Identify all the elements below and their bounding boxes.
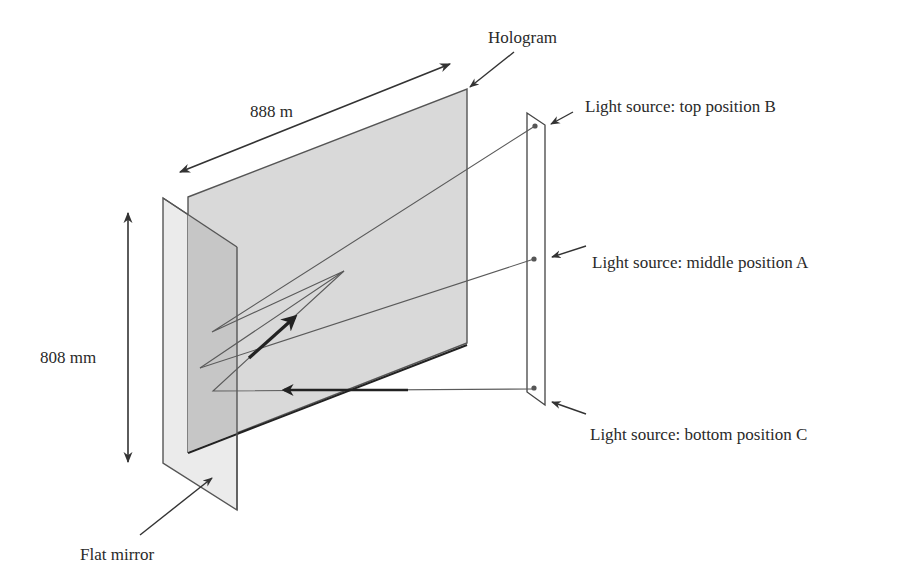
flat-mirror-label: Flat mirror xyxy=(80,545,154,564)
hologram-mirror-diagram: 888 m 808 mm Hologram Flat mirror Light … xyxy=(0,0,922,586)
hologram-pointer xyxy=(470,52,514,87)
hologram-label: Hologram xyxy=(488,28,557,47)
width-dimension-label: 888 m xyxy=(250,102,293,121)
light-source-top-label: Light source: top position B xyxy=(585,97,776,116)
light-source-bottom-label: Light source: bottom position C xyxy=(590,425,807,444)
height-dimension-label: 808 mm xyxy=(40,348,96,367)
light-source-middle-label: Light source: middle position A xyxy=(592,253,809,272)
flat-mirror-pointer xyxy=(140,478,212,535)
light-source-middle-pointer xyxy=(552,246,586,257)
light-source-top-pointer xyxy=(551,112,573,124)
mirror-overlap xyxy=(188,214,237,452)
light-source-bottom-dot xyxy=(531,385,536,390)
light-source-bottom-pointer xyxy=(552,402,586,414)
